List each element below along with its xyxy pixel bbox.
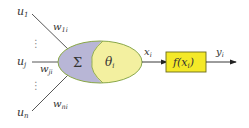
weight-label-ni: wni	[53, 98, 68, 111]
input-label-n: un	[17, 106, 29, 120]
neuron-body	[58, 40, 142, 84]
ellipsis-bottom: ⋮	[31, 80, 41, 91]
input-label-j: uj	[17, 55, 27, 69]
input-label-1: u1	[17, 5, 29, 19]
ellipsis-top: ⋮	[31, 38, 41, 49]
net-output-label: xi	[144, 46, 152, 59]
output-label: yi	[215, 46, 224, 59]
summation-symbol: Σ	[73, 55, 82, 70]
weight-label-1i: w1i	[53, 21, 68, 34]
neuron-model-diagram: u1 uj un ⋮ ⋮ w1i wji wni Σ θi xi f(xi) y…	[0, 0, 249, 128]
weight-label-ji: wji	[40, 63, 53, 76]
activation-function-label: f(xi)	[172, 56, 194, 70]
